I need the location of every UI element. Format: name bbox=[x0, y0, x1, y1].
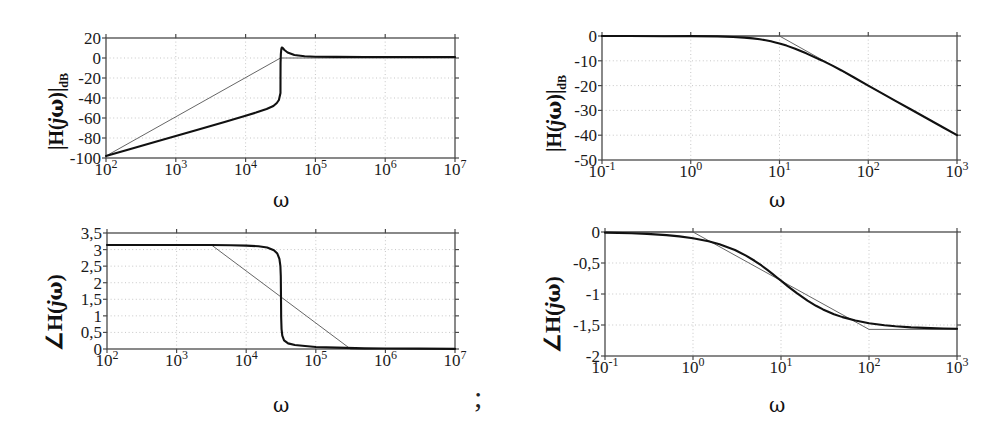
svg-text:102: 102 bbox=[857, 159, 880, 181]
panel-top-left: |H(jω)|dB 102103104105106107200-20-40-60… bbox=[0, 0, 495, 215]
chart-canvas-top-right: 10-11001011021030-10-20-30-40-50 bbox=[495, 0, 989, 215]
svg-text:105: 105 bbox=[304, 348, 327, 370]
svg-text:107: 107 bbox=[444, 348, 467, 370]
panel-top-right: |H(jω)|dB 10-11001011021030-10-20-30-40-… bbox=[495, 0, 989, 215]
panel-bottom-left: ∠H(jω) 1021031041051061073,532,521,510,5… bbox=[0, 215, 495, 440]
svg-text:-80: -80 bbox=[78, 129, 101, 148]
svg-text:104: 104 bbox=[234, 157, 257, 179]
svg-text:-10: -10 bbox=[574, 52, 597, 71]
svg-text:102: 102 bbox=[858, 355, 881, 377]
chart-canvas-bottom-left: 1021031041051061073,532,521,510,50 bbox=[0, 215, 495, 440]
svg-text:104: 104 bbox=[235, 348, 258, 370]
svg-text:-0,5: -0,5 bbox=[573, 254, 600, 273]
svg-text:103: 103 bbox=[165, 348, 188, 370]
svg-text:0: 0 bbox=[94, 340, 103, 359]
svg-text:-2: -2 bbox=[586, 347, 600, 366]
svg-text:106: 106 bbox=[374, 157, 397, 179]
svg-text:-1,5: -1,5 bbox=[573, 316, 600, 335]
svg-text:107: 107 bbox=[444, 157, 467, 179]
svg-text:-40: -40 bbox=[574, 126, 597, 145]
chart-canvas-bottom-right: 10-11001011021030-0,5-1-1,5-2 bbox=[495, 215, 989, 440]
scan-artifact-semicolon: ; bbox=[474, 382, 482, 412]
x-axis-label-bottom-left: ω bbox=[273, 393, 289, 417]
svg-text:-40: -40 bbox=[78, 89, 101, 108]
panel-bottom-right: ∠H(jω) 10-11001011021030-0,5-1-1,5-2 ω bbox=[495, 215, 989, 440]
svg-text:103: 103 bbox=[946, 159, 969, 181]
svg-text:100: 100 bbox=[682, 355, 705, 377]
svg-text:-100: -100 bbox=[70, 149, 101, 168]
x-axis-label-top-right: ω bbox=[769, 188, 785, 212]
svg-text:-1: -1 bbox=[586, 285, 600, 304]
svg-text:0: 0 bbox=[592, 223, 601, 242]
svg-text:103: 103 bbox=[164, 157, 187, 179]
x-axis-label-bottom-right: ω bbox=[769, 393, 785, 417]
chart-canvas-top-left: 102103104105106107200-20-40-60-80-100 bbox=[0, 0, 495, 215]
svg-text:101: 101 bbox=[770, 355, 793, 377]
svg-text:-20: -20 bbox=[78, 69, 101, 88]
svg-text:106: 106 bbox=[374, 348, 397, 370]
svg-text:-50: -50 bbox=[574, 151, 597, 170]
svg-text:100: 100 bbox=[679, 159, 702, 181]
svg-text:103: 103 bbox=[946, 355, 969, 377]
svg-text:-20: -20 bbox=[574, 77, 597, 96]
x-axis-label-top-left: ω bbox=[273, 188, 289, 212]
svg-text:105: 105 bbox=[304, 157, 327, 179]
svg-text:101: 101 bbox=[768, 159, 791, 181]
svg-text:20: 20 bbox=[84, 29, 101, 48]
svg-text:0: 0 bbox=[93, 49, 102, 68]
svg-text:-30: -30 bbox=[574, 101, 597, 120]
svg-text:-60: -60 bbox=[78, 109, 101, 128]
svg-text:0: 0 bbox=[589, 27, 598, 46]
bode-plot-figure: |H(jω)|dB 102103104105106107200-20-40-60… bbox=[0, 0, 989, 440]
